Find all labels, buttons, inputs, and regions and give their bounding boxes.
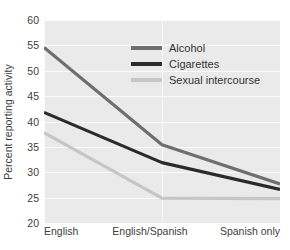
y-axis-tick-30: 30 <box>27 167 39 178</box>
y-axis-tick-25: 25 <box>27 192 39 203</box>
y-axis-tick-labels: 202530354045505560 <box>16 20 42 223</box>
y-axis-tick-45: 45 <box>27 91 39 102</box>
y-axis-tick-35: 35 <box>27 142 39 153</box>
legend-swatch-sexual-intercourse <box>131 78 162 82</box>
line-chart: Percent reporting activity 2025303540455… <box>0 0 290 250</box>
series-line-sexual-intercourse <box>44 133 280 199</box>
legend-item: Sexual intercourse <box>131 73 260 87</box>
legend-swatch-alcohol <box>131 46 162 50</box>
legend-label-alcohol: Alcohol <box>169 43 205 54</box>
y-axis-title: Percent reporting activity <box>0 20 16 223</box>
y-axis-tick-55: 55 <box>27 40 39 51</box>
legend-item: Cigarettes <box>131 57 260 71</box>
legend-label-sexual-intercourse: Sexual intercourse <box>169 75 260 86</box>
legend-item: Alcohol <box>131 41 260 55</box>
x-axis-tick-spanish-only: Spanish only <box>220 225 280 238</box>
chart-legend: Alcohol Cigarettes Sexual intercourse <box>131 41 260 87</box>
y-axis-tick-50: 50 <box>27 66 39 77</box>
legend-label-cigarettes: Cigarettes <box>169 59 219 70</box>
y-axis-tick-60: 60 <box>27 15 39 26</box>
x-axis-tick-labels: English English/Spanish Spanish only <box>0 225 290 243</box>
y-axis-tick-40: 40 <box>27 116 39 127</box>
x-axis-tick-english-spanish: English/Spanish <box>112 225 187 238</box>
legend-swatch-cigarettes <box>131 62 162 66</box>
x-axis-tick-english: English <box>44 225 78 238</box>
y-axis-title-label: Percent reporting activity <box>2 64 14 180</box>
